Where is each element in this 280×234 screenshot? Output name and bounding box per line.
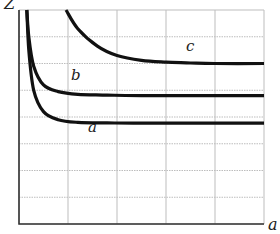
curves	[27, 10, 264, 123]
curve-b	[27, 10, 264, 96]
y-axis-label: Z	[3, 0, 16, 13]
chart-canvas: Z a a b c	[0, 0, 280, 234]
curve-b-label: b	[71, 66, 81, 84]
grid-lines	[19, 10, 264, 224]
curve-a-label: a	[88, 118, 97, 136]
curve-a	[27, 10, 264, 123]
x-axis-label: a	[268, 215, 278, 234]
curve-c-label: c	[186, 37, 195, 55]
